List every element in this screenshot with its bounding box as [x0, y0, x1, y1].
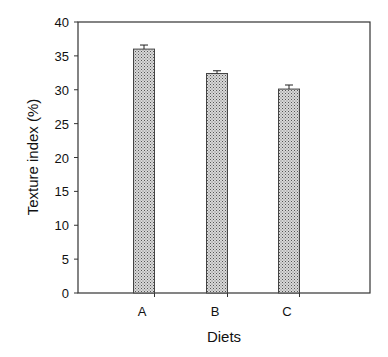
y-tick-label: 5 — [62, 252, 69, 267]
x-tick-label: C — [282, 304, 291, 319]
x-axis: ABC — [138, 293, 300, 319]
y-axis-title: Texture index (%) — [24, 99, 41, 216]
y-tick-label: 40 — [55, 15, 69, 30]
y-tick-label: 35 — [55, 49, 69, 64]
y-tick-label: 30 — [55, 83, 69, 98]
y-tick-label: 10 — [55, 218, 69, 233]
y-tick-label: 20 — [55, 151, 69, 166]
y-tick-label: 25 — [55, 117, 69, 132]
bar-C — [279, 89, 300, 293]
bars — [134, 45, 300, 293]
x-tick-label: B — [211, 304, 220, 319]
bar-B — [207, 73, 228, 293]
x-tick-label: A — [138, 304, 147, 319]
y-tick-label: 15 — [55, 184, 69, 199]
bar-chart: 0510152025303540 ABC Diets Texture index… — [0, 0, 388, 357]
bar-A — [134, 49, 155, 293]
y-axis: 0510152025303540 — [55, 15, 78, 301]
y-tick-label: 0 — [62, 286, 69, 301]
x-axis-title: Diets — [207, 328, 241, 345]
